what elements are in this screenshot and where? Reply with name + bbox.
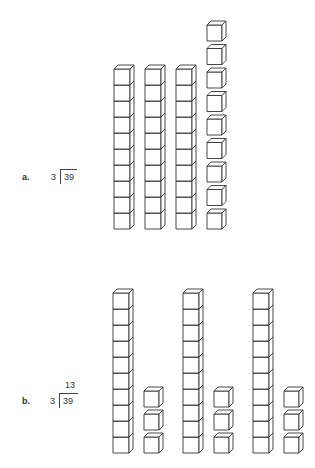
tens-rod-1-unit-1-front: [114, 197, 130, 213]
ones-cube-2-front: [207, 190, 222, 206]
tens-rod-2-unit-1-front: [145, 197, 161, 213]
tens-rod-2-unit-9-front: [145, 69, 161, 85]
tens-rod-2-unit-0-front: [145, 213, 161, 229]
group-3-tens-rod-unit-1-front: [253, 421, 269, 437]
group-1-ones-cube-2-front: [144, 414, 159, 430]
group-2-tens-rod-unit-5-front: [183, 357, 199, 373]
group-2-tens-rod-unit-6-front: [183, 341, 199, 357]
tens-rod-2-unit-5-front: [145, 133, 161, 149]
ones-cube-5-front: [207, 119, 222, 135]
tens-rod-3-unit-8-front: [176, 85, 192, 101]
ones-cube-2-side: [222, 186, 226, 206]
group-2-ones-cube-1-side: [229, 433, 233, 453]
group-3-ones-cube-2-side: [299, 410, 303, 430]
ones-cube-8-front: [207, 49, 222, 65]
tens-rod-1-unit-3-front: [114, 165, 130, 181]
group-2-tens-rod-unit-3-front: [183, 389, 199, 405]
group-3-tens-rod-unit-3-front: [253, 389, 269, 405]
tens-rod-2-unit-8-front: [145, 85, 161, 101]
group-3-tens-rod-unit-9-side: [269, 289, 273, 309]
base-ten-blocks-diagram: [0, 0, 315, 468]
tens-rod-3-unit-9-front: [176, 69, 192, 85]
group-3-tens-rod-unit-5-front: [253, 357, 269, 373]
group-2-ones-cube-3-front: [214, 391, 229, 407]
ones-cube-6-front: [207, 96, 222, 112]
group-2-tens-rod-unit-0-front: [183, 437, 199, 453]
group-2-ones-cube-2-front: [214, 414, 229, 430]
ones-cube-5-side: [222, 115, 226, 135]
tens-rod-1-unit-2-front: [114, 181, 130, 197]
group-1-ones-cube-1-side: [159, 433, 163, 453]
group-1-ones-cube-3-side: [159, 387, 163, 407]
problem-a-base-ten-model: [114, 21, 226, 229]
tens-rod-1-unit-5-front: [114, 133, 130, 149]
group-3-tens-rod-unit-6-front: [253, 341, 269, 357]
tens-rod-2-unit-7-front: [145, 101, 161, 117]
group-3-tens-rod-unit-7-front: [253, 325, 269, 341]
ones-cube-4-side: [222, 139, 226, 159]
group-3-tens-rod-unit-2-front: [253, 405, 269, 421]
tens-rod-2-unit-2-front: [145, 181, 161, 197]
group-1-ones-cube-3-front: [144, 391, 159, 407]
group-1-tens-rod-unit-6-front: [113, 341, 129, 357]
tens-rod-3-unit-1-front: [176, 197, 192, 213]
group-2-ones-cube-2-side: [229, 410, 233, 430]
tens-rod-1-unit-4-front: [114, 149, 130, 165]
tens-rod-3-unit-6-front: [176, 117, 192, 133]
tens-rod-2-unit-3-front: [145, 165, 161, 181]
group-2-ones-cube-1-front: [214, 437, 229, 453]
ones-cube-7-front: [207, 72, 222, 88]
group-3-ones-cube-2-front: [284, 414, 299, 430]
group-1-ones-cube-2-side: [159, 410, 163, 430]
group-1-tens-rod-unit-0-front: [113, 437, 129, 453]
tens-rod-3-unit-0-front: [176, 213, 192, 229]
ones-cube-1-side: [222, 209, 226, 229]
ones-cube-9-front: [207, 25, 222, 41]
group-1-ones-cube-1-front: [144, 437, 159, 453]
ones-cube-8-side: [222, 45, 226, 65]
problem-b-base-ten-model: [113, 289, 303, 453]
group-2-tens-rod-unit-9-front: [183, 293, 199, 309]
group-1-tens-rod-unit-7-front: [113, 325, 129, 341]
group-2-tens-rod-unit-7-front: [183, 325, 199, 341]
ones-cube-3-front: [207, 166, 222, 182]
tens-rod-3-unit-3-front: [176, 165, 192, 181]
tens-rod-1-unit-9-side: [130, 65, 134, 85]
tens-rod-3-unit-2-front: [176, 181, 192, 197]
ones-cube-3-side: [222, 162, 226, 182]
group-2-tens-rod-unit-1-front: [183, 421, 199, 437]
ones-cube-1-front: [207, 213, 222, 229]
group-1-tens-rod-unit-9-side: [129, 289, 133, 309]
tens-rod-1-unit-7-front: [114, 101, 130, 117]
ones-cube-9-side: [222, 21, 226, 41]
ones-cube-4-front: [207, 143, 222, 159]
group-1-tens-rod-unit-3-front: [113, 389, 129, 405]
group-1-tens-rod-unit-5-front: [113, 357, 129, 373]
tens-rod-3-unit-7-front: [176, 101, 192, 117]
group-2-tens-rod-unit-2-front: [183, 405, 199, 421]
tens-rod-1-unit-6-front: [114, 117, 130, 133]
tens-rod-3-unit-4-front: [176, 149, 192, 165]
group-3-ones-cube-3-side: [299, 387, 303, 407]
group-2-tens-rod-unit-8-front: [183, 309, 199, 325]
tens-rod-2-unit-9-side: [161, 65, 165, 85]
tens-rod-1-unit-9-front: [114, 69, 130, 85]
group-2-tens-rod-unit-9-side: [199, 289, 203, 309]
group-1-tens-rod-unit-4-front: [113, 373, 129, 389]
group-1-tens-rod-unit-1-front: [113, 421, 129, 437]
group-3-ones-cube-1-side: [299, 433, 303, 453]
tens-rod-1-unit-0-front: [114, 213, 130, 229]
group-3-ones-cube-1-front: [284, 437, 299, 453]
group-2-ones-cube-3-side: [229, 387, 233, 407]
ones-cube-6-side: [222, 92, 226, 112]
group-2-tens-rod-unit-4-front: [183, 373, 199, 389]
group-3-tens-rod-unit-0-front: [253, 437, 269, 453]
group-1-tens-rod-unit-9-front: [113, 293, 129, 309]
group-3-tens-rod-unit-4-front: [253, 373, 269, 389]
tens-rod-2-unit-4-front: [145, 149, 161, 165]
group-3-tens-rod-unit-8-front: [253, 309, 269, 325]
tens-rod-3-unit-9-side: [192, 65, 196, 85]
tens-rod-3-unit-5-front: [176, 133, 192, 149]
group-3-tens-rod-unit-9-front: [253, 293, 269, 309]
tens-rod-2-unit-6-front: [145, 117, 161, 133]
